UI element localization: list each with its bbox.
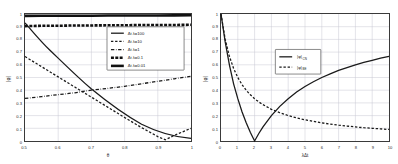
- curve-dt-lambda-0p1: [25, 25, 191, 26]
- svg-text:0.6: 0.6: [16, 62, 22, 67]
- figure-container: Δt λ=100 Δt λ=10 Δt λ=1 Δt λ=0.1: [0, 0, 398, 164]
- legend-label-4: Δt λ=0.01: [128, 63, 146, 68]
- legend-label-0: Δt λ=100: [128, 31, 145, 36]
- legend-label-1: Δt λ=10: [128, 39, 143, 44]
- xtick-labels-left: 0.5 0.6 0.7 0.8 0.9 1: [21, 145, 194, 150]
- svg-text:0.4: 0.4: [212, 88, 218, 93]
- svg-text:0.5: 0.5: [212, 75, 218, 80]
- svg-text:0.4: 0.4: [16, 88, 22, 93]
- svg-text:0.6: 0.6: [212, 62, 218, 67]
- svg-text:0.8: 0.8: [16, 36, 22, 41]
- legend-right[interactable]: |φ| CN |φ| BE: [275, 49, 320, 74]
- legend-label-be-base: |φ|: [297, 65, 302, 70]
- svg-text:0.2: 0.2: [16, 114, 22, 119]
- curve-dt-lambda-0p01: [25, 15, 191, 16]
- svg-text:1: 1: [236, 145, 239, 150]
- svg-text:0: 0: [20, 140, 23, 145]
- svg-text:0.9: 0.9: [156, 145, 162, 150]
- svg-text:9: 9: [372, 145, 375, 150]
- svg-text:8: 8: [355, 145, 358, 150]
- svg-text:10: 10: [388, 145, 393, 150]
- svg-text:2: 2: [253, 145, 256, 150]
- curve-dt-lambda-1: [25, 76, 191, 98]
- svg-text:0.2: 0.2: [212, 114, 218, 119]
- svg-text:0.7: 0.7: [88, 145, 94, 150]
- svg-text:0.1: 0.1: [212, 127, 218, 132]
- legend-left[interactable]: Δt λ=100 Δt λ=10 Δt λ=1 Δt λ=0.1: [107, 27, 184, 70]
- plot-panel-left: Δt λ=100 Δt λ=10 Δt λ=1 Δt λ=0.1: [0, 0, 199, 164]
- svg-text:0.7: 0.7: [212, 49, 218, 54]
- svg-text:0.5: 0.5: [21, 145, 27, 150]
- svg-text:5: 5: [304, 145, 307, 150]
- xaxis-label-right: λΔt: [302, 153, 309, 158]
- plot-svg-left: Δt λ=100 Δt λ=10 Δt λ=1 Δt λ=0.1: [25, 14, 191, 141]
- svg-text:7: 7: [338, 145, 341, 150]
- legend-label-3: Δt λ=0.1: [128, 55, 144, 60]
- svg-text:0.8: 0.8: [122, 145, 128, 150]
- ytick-labels-left: 0 0.1 0.2 0.3 0.4 0.5 0.6 0.7 0.8 0.9 1: [16, 12, 22, 145]
- legend-label-cn-sub: CN: [303, 57, 307, 61]
- svg-text:0.8: 0.8: [212, 36, 218, 41]
- svg-text:0.3: 0.3: [16, 101, 22, 106]
- plot-area-right: |φ| CN |φ| BE: [220, 13, 390, 142]
- yaxis-label-right: |φ|: [203, 76, 208, 81]
- svg-text:0.1: 0.1: [16, 127, 22, 132]
- legend-label-be-sub: BE: [303, 67, 307, 71]
- svg-text:1: 1: [20, 12, 23, 17]
- svg-text:3: 3: [270, 145, 273, 150]
- svg-text:1: 1: [191, 145, 194, 150]
- svg-text:0: 0: [219, 145, 222, 150]
- svg-text:0.9: 0.9: [212, 24, 218, 29]
- xtick-labels-right: 0 1 2 3 4 5 6 7 8 9 10: [219, 145, 393, 150]
- legend-label-cn-base: |φ|: [297, 55, 302, 60]
- xaxis-label-left: θ: [107, 153, 110, 158]
- svg-text:0.9: 0.9: [16, 24, 22, 29]
- ytick-labels-right: 0 0.1 0.2 0.3 0.4 0.5 0.6 0.7 0.8 0.9 1: [212, 12, 218, 145]
- svg-text:0.6: 0.6: [55, 145, 61, 150]
- svg-text:1: 1: [216, 12, 219, 17]
- plot-svg-right: |φ| CN |φ| BE: [221, 14, 389, 141]
- legend-box-right: [275, 49, 320, 74]
- svg-text:0.7: 0.7: [16, 49, 22, 54]
- legend-label-2: Δt λ=1: [128, 47, 141, 52]
- svg-text:0.5: 0.5: [16, 75, 22, 80]
- plot-panel-right: |φ| CN |φ| BE 0 0.1 0.2 0.3 0.4 0.5: [199, 0, 398, 164]
- svg-text:6: 6: [321, 145, 324, 150]
- svg-text:0.3: 0.3: [212, 101, 218, 106]
- yaxis-label-left: |φ|: [6, 76, 11, 81]
- svg-text:0: 0: [216, 140, 219, 145]
- plot-area-left: Δt λ=100 Δt λ=10 Δt λ=1 Δt λ=0.1: [24, 13, 192, 142]
- svg-text:4: 4: [287, 145, 290, 150]
